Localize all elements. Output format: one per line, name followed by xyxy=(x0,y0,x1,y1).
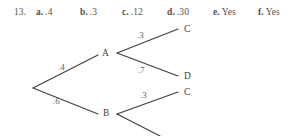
tree-node-C-lower: C xyxy=(184,87,190,97)
tree-branches-svg xyxy=(0,0,298,136)
branch-B-to-lower-cropped xyxy=(117,114,160,136)
tree-node-C-upper: C xyxy=(184,24,190,34)
tree-node-A: A xyxy=(102,48,109,58)
tree-edge-label-A-D: .7 xyxy=(138,65,145,75)
answer-key-page: 13. a..4 b..3 c..12 d..30 e.Yes f.Yes xyxy=(0,0,298,136)
branch-A-to-C xyxy=(117,29,178,53)
tree-edge-label-root-B: .6 xyxy=(53,96,60,106)
branch-B-to-C xyxy=(117,92,178,114)
probability-tree-diagram: A B C D C .4 .6 .3 .7 .3 xyxy=(0,0,298,136)
branch-A-to-D xyxy=(117,53,178,76)
tree-node-D: D xyxy=(184,71,191,81)
tree-node-B: B xyxy=(103,108,109,118)
tree-edge-label-root-A: .4 xyxy=(58,62,65,72)
tree-edge-label-A-C: .3 xyxy=(137,30,144,40)
branch-root-to-B xyxy=(33,88,98,114)
branch-root-to-A xyxy=(33,55,98,88)
tree-edge-label-B-C: .3 xyxy=(140,90,147,100)
